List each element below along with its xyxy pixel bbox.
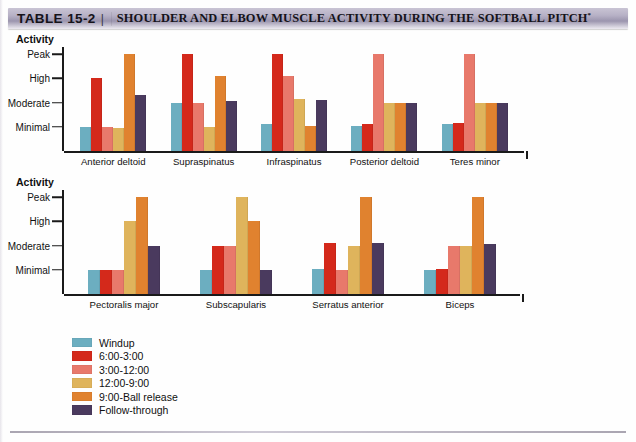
x-axis-line bbox=[64, 151, 524, 153]
legend-item: 6:00-3:00 bbox=[72, 350, 178, 363]
bottom-divider-rule bbox=[10, 431, 626, 433]
bar-12-00-9-00 bbox=[294, 99, 305, 151]
y-axis-tick bbox=[52, 78, 62, 80]
y-axis-tick bbox=[52, 126, 62, 128]
bar-6-00-3-00 bbox=[182, 54, 193, 151]
bar-group-bars bbox=[80, 47, 146, 151]
bar-group: Infraspinatus bbox=[249, 47, 339, 151]
bar-follow-through bbox=[497, 103, 508, 151]
chart-legend: Windup6:00-3:003:00-12:0012:00-9:009:00-… bbox=[72, 336, 178, 417]
bar-9-00-ball-release bbox=[215, 76, 226, 151]
bar-9-00-ball-release bbox=[395, 103, 406, 151]
y-axis-tick bbox=[52, 197, 62, 199]
bar-3-00-12-00 bbox=[373, 54, 384, 151]
legend-color-swatch bbox=[72, 392, 92, 402]
bar-12-00-9-00 bbox=[348, 246, 360, 294]
x-axis-line bbox=[64, 294, 520, 296]
bar-windup bbox=[261, 124, 272, 151]
bar-3-00-12-00 bbox=[448, 246, 460, 294]
bar-group-bars bbox=[88, 190, 160, 294]
bar-follow-through bbox=[260, 270, 272, 294]
bar-follow-through bbox=[148, 246, 160, 294]
table-title-text: SHOULDER AND ELBOW MUSCLE ACTIVITY DURIN… bbox=[117, 11, 588, 25]
bar-9-00-ball-release bbox=[486, 103, 497, 151]
bar-group: Pectoralis major bbox=[68, 190, 180, 294]
x-axis-category-label: Pectoralis major bbox=[90, 299, 159, 310]
legend-color-swatch bbox=[72, 405, 92, 415]
x-axis-category-label: Supraspinatus bbox=[173, 156, 234, 167]
y-axis-tick-label: Moderate bbox=[8, 240, 50, 251]
legend-item: 9:00-Ball release bbox=[72, 390, 178, 403]
x-axis-end-cap bbox=[526, 151, 528, 159]
bar-windup bbox=[442, 124, 453, 151]
bar-group: Biceps bbox=[404, 190, 516, 294]
y-axis-tick bbox=[52, 269, 62, 271]
x-axis-category-label: Subscapularis bbox=[206, 299, 266, 310]
chart-elbow-muscles: Activity MinimalModerateHighPeak Pectora… bbox=[0, 176, 636, 316]
bar-follow-through bbox=[135, 95, 146, 151]
bar-group: Posterior deltoid bbox=[339, 47, 429, 151]
bar-12-00-9-00 bbox=[236, 197, 248, 294]
bar-6-00-3-00 bbox=[362, 124, 373, 151]
table-title-footnote-marker: * bbox=[588, 11, 592, 19]
bar-9-00-ball-release bbox=[472, 197, 484, 294]
bar-follow-through bbox=[316, 100, 327, 151]
x-axis-end-cap bbox=[522, 294, 524, 302]
chart2-y-axis: MinimalModerateHighPeak bbox=[0, 190, 64, 294]
y-axis-tick-label: Peak bbox=[27, 49, 50, 60]
legend-color-swatch bbox=[72, 365, 92, 375]
bar-group-bars bbox=[171, 47, 237, 151]
y-axis-tick-label: Minimal bbox=[16, 264, 50, 275]
bar-12-00-9-00 bbox=[384, 103, 395, 151]
bar-3-00-12-00 bbox=[283, 76, 294, 151]
chart2-axis-title: Activity bbox=[16, 176, 54, 188]
bar-3-00-12-00 bbox=[464, 54, 475, 151]
bar-6-00-3-00 bbox=[91, 78, 102, 151]
bar-12-00-9-00 bbox=[204, 127, 215, 151]
legend-color-swatch bbox=[72, 338, 92, 348]
bar-group: Subscapularis bbox=[180, 190, 292, 294]
legend-item: 12:00-9:00 bbox=[72, 377, 178, 390]
bar-12-00-9-00 bbox=[475, 103, 486, 151]
legend-item-label: 3:00-12:00 bbox=[99, 364, 149, 376]
legend-item-label: Windup bbox=[99, 337, 135, 349]
bar-group-bars bbox=[312, 190, 384, 294]
legend-item: Follow-through bbox=[72, 404, 178, 417]
chart1-axis-title: Activity bbox=[16, 33, 54, 45]
chart1-plot-area: Anterior deltoidSupraspinatusInfraspinat… bbox=[68, 47, 520, 151]
bar-9-00-ball-release bbox=[136, 197, 148, 294]
x-axis-category-label: Serratus anterior bbox=[312, 299, 383, 310]
table-title: SHOULDER AND ELBOW MUSCLE ACTIVITY DURIN… bbox=[117, 11, 591, 26]
bar-windup bbox=[88, 270, 100, 294]
legend-item-label: Follow-through bbox=[99, 404, 168, 416]
y-axis-line bbox=[62, 190, 64, 294]
chart1-y-axis: MinimalModerateHighPeak bbox=[0, 47, 64, 151]
bar-6-00-3-00 bbox=[436, 269, 448, 294]
y-axis-tick bbox=[52, 54, 62, 56]
bar-9-00-ball-release bbox=[248, 221, 260, 294]
legend-item: Windup bbox=[72, 336, 178, 349]
legend-item-label: 6:00-3:00 bbox=[99, 350, 143, 362]
y-axis-tick-label: High bbox=[29, 73, 50, 84]
bar-3-00-12-00 bbox=[112, 270, 124, 294]
bar-group-bars bbox=[261, 47, 327, 151]
legend-item-label: 9:00-Ball release bbox=[99, 391, 178, 403]
legend-item: 3:00-12:00 bbox=[72, 363, 178, 376]
y-axis-tick bbox=[52, 221, 62, 223]
y-axis-tick-label: Minimal bbox=[16, 121, 50, 132]
x-axis-category-label: Teres minor bbox=[450, 156, 500, 167]
bar-follow-through bbox=[406, 103, 417, 151]
bar-group-bars bbox=[200, 190, 272, 294]
table-number-label: TABLE 15-2 bbox=[17, 11, 96, 26]
bar-6-00-3-00 bbox=[272, 54, 283, 151]
bar-3-00-12-00 bbox=[336, 270, 348, 294]
bar-group-bars bbox=[351, 47, 417, 151]
y-axis-tick bbox=[52, 102, 62, 104]
table-header-banner: TABLE 15-2 | SHOULDER AND ELBOW MUSCLE A… bbox=[8, 8, 628, 29]
bar-follow-through bbox=[372, 243, 384, 294]
table-figure-page: TABLE 15-2 | SHOULDER AND ELBOW MUSCLE A… bbox=[0, 0, 636, 442]
x-axis-category-label: Anterior deltoid bbox=[81, 156, 146, 167]
chart2-bar-groups: Pectoralis majorSubscapularisSerratus an… bbox=[68, 190, 516, 294]
y-axis-tick bbox=[52, 245, 62, 247]
bar-6-00-3-00 bbox=[100, 270, 112, 294]
